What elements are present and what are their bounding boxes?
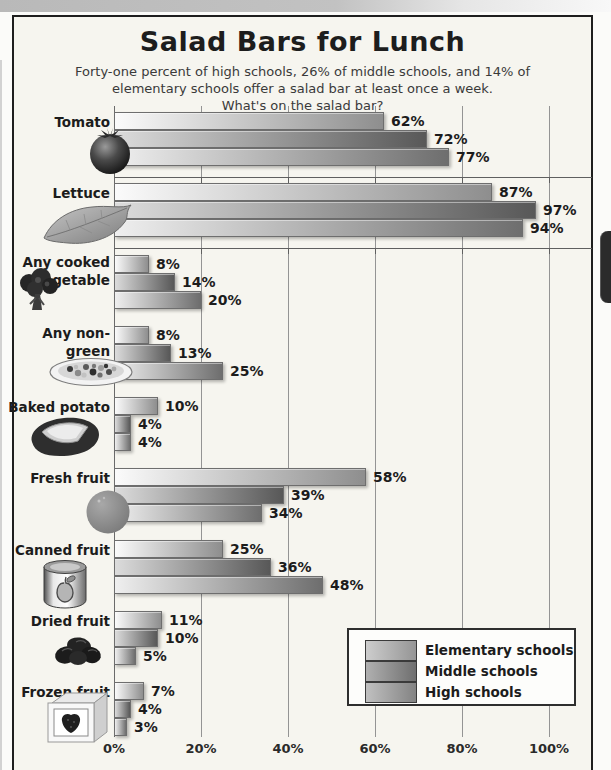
bar-elementary-schools [114, 326, 149, 344]
bar-value-label: 7% [151, 682, 175, 700]
bar-middle-schools [114, 201, 536, 219]
bar-elementary-schools [114, 468, 366, 486]
scan-edge-line [0, 60, 2, 770]
bar-high-schools [114, 219, 523, 237]
bar-value-label: 97% [543, 201, 577, 219]
bar-elementary-schools [114, 540, 223, 558]
bar-value-label: 87% [499, 183, 533, 201]
bar-middle-schools [114, 486, 284, 504]
bar-elementary-schools [114, 255, 149, 273]
bar-value-label: 10% [165, 629, 199, 647]
bar-value-label: 4% [138, 415, 162, 433]
bar-value-label: 34% [269, 504, 303, 522]
bar-high-schools [114, 576, 323, 594]
bar-high-schools [114, 504, 262, 522]
legend-swatch [365, 661, 417, 682]
broccoli-icon [16, 268, 62, 314]
bar-value-label: 58% [373, 468, 407, 486]
x-tick-label: 20% [176, 741, 226, 756]
bar-high-schools [114, 647, 136, 665]
bar-middle-schools [114, 415, 131, 433]
bar-high-schools [114, 291, 201, 309]
bar-value-label: 5% [143, 647, 167, 665]
bar-value-label: 48% [330, 576, 364, 594]
bar-value-label: 20% [208, 291, 242, 309]
bar-high-schools [114, 433, 131, 451]
ruler-line [114, 177, 592, 178]
bar-elementary-schools [114, 682, 144, 700]
chart-subtitle-line: What's on the salad bar? [12, 98, 593, 113]
chart-subtitle-line: Forty-one percent of high schools, 26% o… [12, 64, 593, 79]
bar-high-schools [114, 718, 127, 736]
ruler-tick [549, 248, 550, 254]
bar-value-label: 39% [291, 486, 325, 504]
bar-value-label: 4% [138, 433, 162, 451]
bar-value-label: 4% [138, 700, 162, 718]
salad-plate-icon [48, 356, 134, 388]
ruler-tick [201, 248, 202, 254]
page-edge-tab [600, 231, 611, 303]
orange-icon [84, 488, 132, 536]
bar-value-label: 25% [230, 540, 264, 558]
legend-swatch [365, 640, 417, 661]
bar-value-label: 8% [156, 326, 180, 344]
bar-value-label: 8% [156, 255, 180, 273]
bar-middle-schools [114, 700, 131, 718]
ruler-tick [288, 248, 289, 254]
frozen-fruit-box-icon [44, 690, 110, 748]
x-tick-label: 100% [524, 741, 574, 756]
bar-value-label: 10% [165, 397, 199, 415]
bar-value-label: 25% [230, 362, 264, 380]
tomato-icon [86, 126, 134, 176]
legend-label: Middle schools [425, 661, 538, 682]
chart-subtitle-line: elementary schools offer a salad bar at … [12, 81, 593, 96]
bar-elementary-schools [114, 112, 384, 130]
ruler-tick [462, 248, 463, 254]
bar-elementary-schools [114, 183, 492, 201]
ruler-tick [549, 177, 550, 183]
chart-title: Salad Bars for Lunch [12, 26, 593, 57]
category-label: Fresh fruit [8, 469, 110, 487]
legend-label: High schools [425, 682, 522, 703]
bar-value-label: 72% [434, 130, 468, 148]
legend: Elementary schoolsMiddle schoolsHigh sch… [347, 628, 576, 706]
lettuce-icon [40, 200, 134, 248]
bar-middle-schools [114, 130, 427, 148]
bar-value-label: 77% [456, 148, 490, 166]
bar-value-label: 94% [530, 219, 564, 237]
bar-value-label: 62% [391, 112, 425, 130]
scanned-infographic-page: Salad Bars for Lunch Forty-one percent o… [0, 0, 611, 770]
category-label: Dried fruit [8, 612, 110, 630]
ruler-tick [375, 248, 376, 254]
bar-middle-schools [114, 629, 158, 647]
baked-potato-icon [26, 412, 104, 460]
bar-high-schools [114, 148, 449, 166]
bar-middle-schools [114, 273, 175, 291]
ruler-line [114, 248, 592, 249]
legend-label: Elementary schools [425, 640, 573, 661]
bar-value-label: 14% [182, 273, 216, 291]
x-tick-label: 40% [263, 741, 313, 756]
bar-value-label: 11% [169, 611, 203, 629]
x-tick-label: 60% [350, 741, 400, 756]
bar-value-label: 3% [134, 718, 158, 736]
bar-middle-schools [114, 558, 271, 576]
scan-edge-strip [0, 0, 611, 12]
legend-swatch [365, 682, 417, 703]
bar-elementary-schools [114, 397, 158, 415]
x-tick-label: 80% [437, 741, 487, 756]
bar-elementary-schools [114, 611, 162, 629]
dried-fruit-icon [52, 634, 104, 668]
bar-value-label: 36% [278, 558, 312, 576]
bar-value-label: 13% [178, 344, 212, 362]
fruit-can-icon [38, 556, 92, 610]
